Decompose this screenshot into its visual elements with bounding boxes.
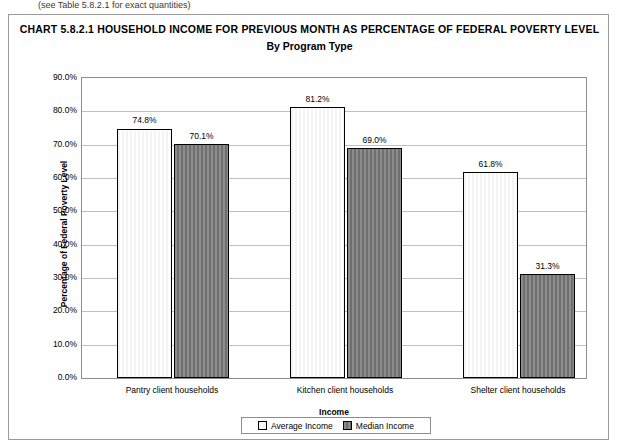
- y-tick-label: 40.0%: [53, 239, 77, 249]
- bar-pantry-average: [117, 129, 172, 378]
- y-tick-label: 20.0%: [53, 305, 77, 315]
- chart-legend: Average Income Median Income: [241, 417, 431, 434]
- y-tick-label: 30.0%: [53, 272, 77, 282]
- legend-label-median: Median Income: [356, 421, 414, 431]
- bar-kitchen-average: [290, 107, 345, 378]
- y-tick-label: 90.0%: [53, 72, 77, 82]
- x-axis-label: Income: [81, 407, 587, 417]
- bar-value-kitchen-median: 69.0%: [347, 135, 402, 145]
- x-category-label-shelter: Shelter client households: [427, 385, 609, 395]
- plot-area: 74.8% 70.1% 81.2% 69.0% 61.8% 31.3%: [81, 77, 587, 379]
- legend-item-average-income: Average Income: [258, 421, 333, 431]
- bar-value-shelter-median: 31.3%: [520, 261, 575, 271]
- chart-subtitle: By Program Type: [9, 40, 610, 53]
- y-tick-label: 50.0%: [53, 205, 77, 215]
- bar-value-kitchen-average: 81.2%: [290, 94, 345, 104]
- legend-swatch-average-icon: [258, 421, 267, 430]
- legend-swatch-median-icon: [343, 421, 352, 430]
- y-tick-label: 70.0%: [53, 139, 77, 149]
- chart-title: CHART 5.8.2.1 HOUSEHOLD INCOME FOR PREVI…: [9, 23, 610, 36]
- chart-title-block: CHART 5.8.2.1 HOUSEHOLD INCOME FOR PREVI…: [9, 23, 610, 53]
- bar-pantry-median: [174, 144, 229, 378]
- y-tick-label: 80.0%: [53, 105, 77, 115]
- chart-container: CHART 5.8.2.1 HOUSEHOLD INCOME FOR PREVI…: [8, 14, 609, 440]
- y-tick-label: 0.0%: [58, 372, 77, 382]
- y-tick-label: 60.0%: [53, 172, 77, 182]
- y-axis-ticks: 90.0% 80.0% 70.0% 60.0% 50.0% 40.0% 30.0…: [37, 77, 77, 379]
- legend-label-average: Average Income: [271, 421, 333, 431]
- legend-item-median-income: Median Income: [343, 421, 414, 431]
- caption-above-chart: (see Table 5.8.2.1 for exact quantities): [0, 0, 617, 14]
- bar-value-shelter-average: 61.8%: [463, 159, 518, 169]
- bar-value-pantry-median: 70.1%: [174, 131, 229, 141]
- y-tick-label: 10.0%: [53, 339, 77, 349]
- x-category-label-pantry: Pantry client households: [81, 385, 263, 395]
- bar-shelter-median: [520, 274, 575, 378]
- bar-kitchen-median: [347, 148, 402, 378]
- bar-shelter-average: [463, 172, 518, 378]
- bar-value-pantry-average: 74.8%: [117, 115, 172, 125]
- x-category-label-kitchen: Kitchen client households: [254, 385, 436, 395]
